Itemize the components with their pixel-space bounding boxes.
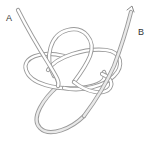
rope-end-b [84, 12, 131, 116]
knot-diagram [0, 0, 154, 142]
rope-left-loop [25, 54, 105, 88]
rope-lower-loop [37, 86, 84, 132]
